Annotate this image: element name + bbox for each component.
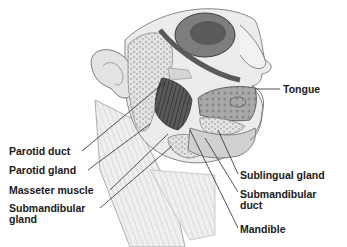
label-sublingual-gland: Sublingual gland <box>240 170 325 181</box>
label-parotid-duct: Parotid duct <box>9 146 70 157</box>
label-tongue: Tongue <box>283 84 320 95</box>
label-masseter-muscle: Masseter muscle <box>9 185 94 196</box>
salivary-glands-diagram: Tongue Parotid duct Parotid gland Masset… <box>0 0 347 247</box>
label-mandible: Mandible <box>240 224 286 235</box>
label-parotid-gland: Parotid gland <box>9 165 76 176</box>
label-submandibular-gland-line2: gland <box>9 214 37 225</box>
label-submandibular-duct-line2: duct <box>240 200 262 211</box>
